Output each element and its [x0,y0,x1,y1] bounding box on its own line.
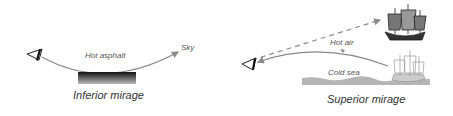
eye-icon [27,49,42,61]
cold-sea-label: Cold sea [328,68,360,77]
apparent-ray [252,20,380,60]
hot-asphalt-label: Hot asphalt [85,51,125,60]
ship-icon-mirage [385,4,426,40]
ship-icon-real [392,50,425,82]
inferior-mirage-caption: Inferior mirage [73,89,144,101]
sky-label: Sky [181,43,194,52]
hot-air-label: Hot air [330,38,354,47]
eye-icon [242,58,256,70]
light-ray [258,52,388,66]
superior-mirage-caption: Superior mirage [327,93,405,105]
hot-asphalt-slab [78,72,136,84]
